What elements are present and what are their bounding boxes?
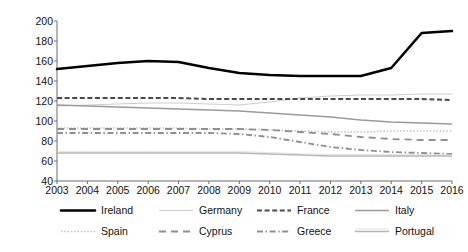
legend-swatch-cyprus-icon <box>158 224 194 238</box>
legend: IrelandGermanyFranceItaly SpainCyprusGre… <box>60 200 452 246</box>
legend-swatch-italy-icon <box>354 203 390 217</box>
legend-label: Portugal <box>395 225 434 237</box>
legend-label: France <box>297 204 330 216</box>
legend-swatch-greece-icon <box>256 224 292 238</box>
legend-label: Germany <box>199 204 242 216</box>
legend-item-ireland[interactable]: Ireland <box>60 200 158 220</box>
axis-lines <box>54 21 452 184</box>
legend-item-portugal[interactable]: Portugal <box>354 221 452 241</box>
legend-row-1: IrelandGermanyFranceItaly <box>60 200 452 220</box>
series-line-cyprus <box>57 129 452 140</box>
legend-swatch-portugal-icon <box>354 224 390 238</box>
legend-label: Italy <box>395 204 414 216</box>
legend-row-2: SpainCyprusGreecePortugal <box>60 221 452 241</box>
legend-swatch-france-icon <box>256 203 292 217</box>
legend-item-italy[interactable]: Italy <box>354 200 452 220</box>
legend-item-france[interactable]: France <box>256 200 354 220</box>
legend-swatch-ireland-icon <box>60 203 96 217</box>
legend-item-germany[interactable]: Germany <box>158 200 256 220</box>
legend-item-spain[interactable]: Spain <box>60 221 158 241</box>
series-line-greece <box>57 133 452 154</box>
legend-label: Spain <box>101 225 128 237</box>
series-layer <box>57 31 452 156</box>
legend-item-greece[interactable]: Greece <box>256 221 354 241</box>
legend-item-cyprus[interactable]: Cyprus <box>158 221 256 241</box>
legend-label: Cyprus <box>199 225 232 237</box>
series-line-france <box>57 98 452 100</box>
legend-swatch-germany-icon <box>158 203 194 217</box>
series-line-ireland <box>57 31 452 76</box>
series-line-italy <box>57 105 452 124</box>
legend-label: Greece <box>297 225 331 237</box>
legend-label: Ireland <box>101 204 133 216</box>
legend-swatch-spain-icon <box>60 224 96 238</box>
